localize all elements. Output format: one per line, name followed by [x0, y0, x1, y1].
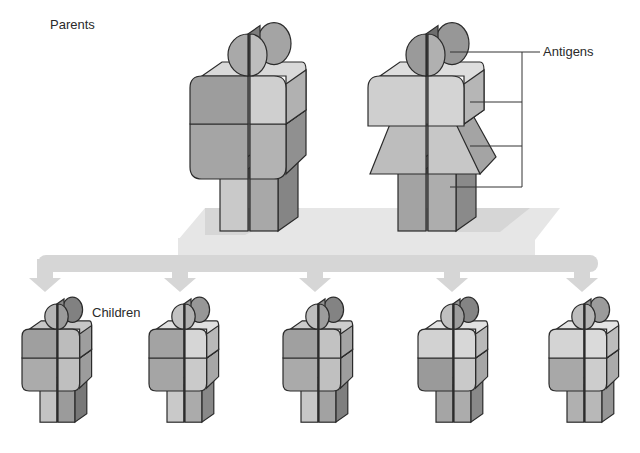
figure-child-4	[418, 297, 488, 422]
figure-father	[190, 23, 306, 231]
children-label: Children	[92, 305, 140, 320]
figure-child-2	[149, 297, 219, 422]
antigens-label: Antigens	[543, 44, 594, 59]
parents-label: Parents	[50, 17, 95, 32]
female-figure-mother	[368, 23, 496, 231]
inheritance-diagram: Parents Antigens Children	[0, 0, 640, 453]
diagram-canvas	[0, 0, 640, 453]
inheritance-arrows	[29, 238, 598, 292]
figure-child-3	[283, 297, 353, 422]
figure-child-5	[549, 297, 619, 422]
figure-child-1	[22, 297, 92, 422]
parent-figures	[190, 23, 496, 231]
